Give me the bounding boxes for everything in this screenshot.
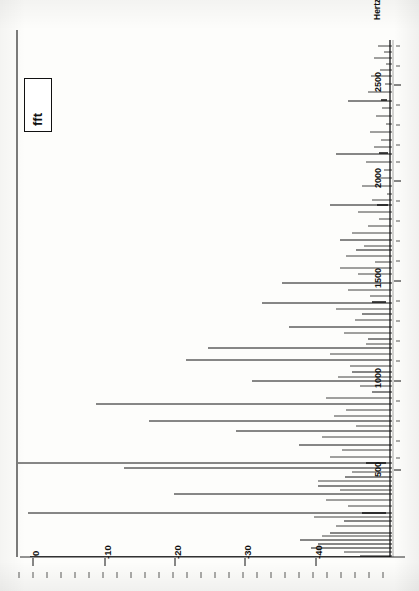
- ytick-label-neg40: -40: [313, 545, 324, 559]
- ytick-label-0: 0: [30, 551, 41, 556]
- axis-unit-label: Hertz: [372, 0, 382, 20]
- xtick-label-1000: 1000: [373, 368, 383, 388]
- xtick-label-1500: 1500: [373, 268, 383, 288]
- ytick-label-neg20: -20: [172, 545, 183, 559]
- fft-annotation-label: fft: [30, 113, 45, 126]
- xtick-label-2000: 2000: [373, 168, 383, 188]
- spectrum-figure: fft Hertz 2500 2000 1500 1000 500 0 -10 …: [0, 0, 419, 591]
- ytick-label-neg10: -10: [102, 545, 113, 559]
- ytick-label-neg30: -30: [242, 545, 253, 559]
- xtick-label-2500: 2500: [373, 72, 383, 92]
- spectrum-plot: [0, 0, 419, 591]
- xtick-label-500: 500: [373, 462, 383, 477]
